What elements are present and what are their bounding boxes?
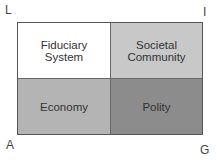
cell-label: Economy (40, 101, 88, 113)
corner-label-a: A (6, 138, 14, 152)
cell-label: Polity (142, 101, 170, 113)
cell-fiduciary-system: Fiduciary System (18, 23, 111, 79)
corner-label-i: I (203, 5, 206, 19)
cell-label: Fiduciary System (41, 39, 88, 63)
corner-label-l: L (5, 3, 12, 17)
cell-societal-community: Societal Community (111, 23, 202, 79)
cell-label: Societal Community (127, 39, 185, 63)
corner-label-g: G (200, 143, 209, 157)
cell-polity: Polity (111, 79, 202, 134)
cell-economy: Economy (18, 79, 111, 134)
agil-grid: Fiduciary System Societal Community Econ… (17, 22, 203, 135)
